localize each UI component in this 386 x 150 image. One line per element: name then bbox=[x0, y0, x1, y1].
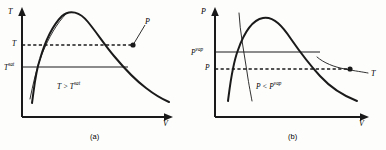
panel-a-tick-lower-sup: sat bbox=[8, 61, 14, 67]
panel-b-point-label: T bbox=[371, 69, 375, 78]
figure-svg bbox=[0, 0, 386, 150]
panel-b-tick-upper-label: Pvap bbox=[191, 46, 203, 57]
panel-a-x-axis-label: V bbox=[163, 119, 168, 128]
panel-a-region-text-sup: sat bbox=[74, 80, 80, 86]
panel-b-tick-upper-sup: vap bbox=[196, 46, 204, 52]
panel-b-region-text: P < Pvap bbox=[256, 80, 281, 91]
panel-a-tick-upper-label: T bbox=[12, 39, 16, 48]
panel-b-thick-curve bbox=[228, 18, 357, 101]
panel-a-leader-line bbox=[133, 25, 145, 45]
panel-a-y-axis-label: T bbox=[8, 7, 12, 16]
panel-a-region-text: T > Tsat bbox=[57, 80, 80, 91]
panel-b-y-axis-label: P bbox=[201, 7, 206, 16]
panel-b-group bbox=[211, 7, 369, 121]
panel-a-marker-dot bbox=[130, 42, 135, 47]
panel-b-caption: (b) bbox=[288, 132, 297, 141]
panel-b-region-text-sup: vap bbox=[274, 80, 282, 86]
panel-b-y-axis-arrow bbox=[211, 7, 219, 16]
panel-a-caption: (a) bbox=[90, 132, 99, 141]
panel-a-y-axis-arrow bbox=[18, 7, 26, 16]
panel-a-region-text-base: T > T bbox=[57, 82, 74, 91]
figure-container: T V T Tsat T > Tsat P P V Pvap P P < Pva… bbox=[0, 0, 386, 150]
panel-b-marker-dot bbox=[347, 66, 352, 71]
panel-b-thin-tail-curve bbox=[317, 57, 368, 73]
panel-a-tick-lower-label: Tsat bbox=[4, 61, 14, 72]
panel-a-point-label: P bbox=[145, 17, 150, 26]
panel-b-x-axis-label: V bbox=[359, 119, 364, 128]
panel-b-region-text-base: P < P bbox=[256, 82, 274, 91]
panel-b-tick-lower-label: P bbox=[205, 63, 210, 72]
